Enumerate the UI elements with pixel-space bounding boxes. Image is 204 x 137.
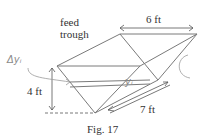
height-label: 4 ft [27,85,42,97]
width-label: 6 ft [146,13,161,25]
delta-y-annotation: Δyᵢ [7,54,22,65]
trough-drawing [0,0,204,137]
feed-trough-figure: feed trough 6 ft 4 ft 7 ft Fig. 17 Δyᵢ y… [0,0,204,137]
figure-caption: Fig. 17 [87,123,118,135]
feed-label: feed [60,16,79,28]
length-label: 7 ft [140,103,155,115]
y-annotation: yᵢ [125,76,133,87]
trough-label: trough [60,28,89,40]
